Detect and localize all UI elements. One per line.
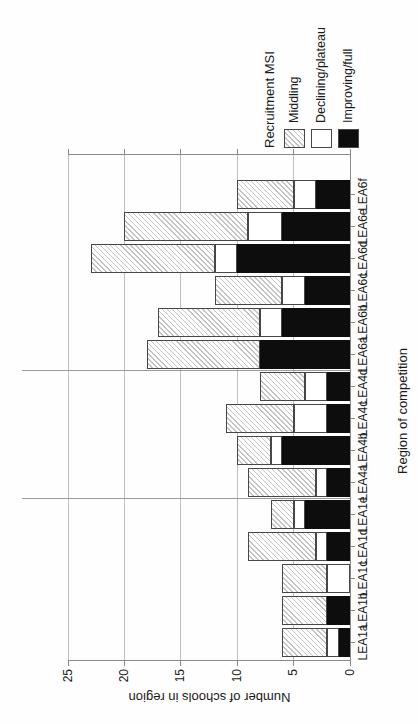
value-tick-label: 15 — [173, 669, 188, 709]
bar-segment-middling — [91, 244, 215, 273]
rotated-bar-chart: Number of schools in region Region of co… — [0, 0, 418, 724]
value-tick-label: 5 — [286, 669, 301, 709]
bar-segment-middling — [124, 212, 248, 241]
y-axis-line — [68, 660, 350, 661]
bar-segment-middling — [248, 468, 316, 497]
bar-segment-improving — [327, 468, 350, 497]
bar-segment-middling — [237, 180, 293, 209]
x-axis-title: Region of competition — [394, 261, 411, 561]
white-swatch-icon — [311, 129, 332, 148]
legend-label: Improving/full — [338, 49, 359, 123]
black-swatch-icon — [338, 129, 359, 148]
bar-segment-declining — [248, 212, 282, 241]
bar-segment-declining — [215, 244, 238, 273]
legend-label: Declining/plateau — [311, 27, 332, 123]
legend-entry-declining: Declining/plateau — [311, 0, 332, 148]
bar-segment-improving — [282, 308, 350, 337]
bar-segment-declining — [294, 500, 305, 529]
y-axis-title: Number of schools in region — [60, 689, 360, 706]
bar-segment-declining — [282, 276, 305, 305]
group-separator — [22, 370, 350, 371]
bar-segment-improving — [327, 596, 350, 625]
bar-segment-improving — [327, 372, 350, 401]
bar-segment-declining — [271, 436, 282, 465]
bar-segment-middling — [147, 340, 260, 369]
bar-segment-improving — [327, 404, 350, 433]
bar-segment-middling — [271, 500, 294, 529]
bar-segment-middling — [226, 404, 294, 433]
bar-segment-improving — [305, 276, 350, 305]
gridline — [68, 155, 69, 660]
bar-segment-middling — [282, 596, 327, 625]
value-tick-label: 25 — [61, 669, 76, 709]
bar-segment-declining — [294, 180, 317, 209]
bar-segment-declining — [327, 564, 350, 593]
bar-segment-middling — [237, 436, 271, 465]
legend-entry-improving: Improving/full — [338, 0, 359, 148]
bar-segment-improving — [237, 244, 350, 273]
bar-segment-declining — [327, 628, 338, 657]
bar-segment-middling — [260, 372, 305, 401]
value-tick-label: 20 — [117, 669, 132, 709]
bar-segment-improving — [260, 340, 350, 369]
bar-segment-improving — [339, 628, 350, 657]
value-tick-label: 0 — [343, 669, 358, 709]
figure-page: Number of schools in region Region of co… — [0, 0, 418, 724]
bar-segment-middling — [158, 308, 260, 337]
bar-segment-middling — [282, 564, 327, 593]
bar-segment-declining — [305, 372, 328, 401]
bar-segment-improving — [282, 212, 350, 241]
bar-segment-declining — [316, 532, 327, 561]
value-tick-label: 10 — [230, 669, 245, 709]
group-separator — [22, 498, 350, 499]
bar-segment-declining — [294, 404, 328, 433]
bar-segment-improving — [282, 436, 350, 465]
bar-segment-middling — [282, 628, 327, 657]
bar-segment-declining — [260, 308, 283, 337]
bar-segment-improving — [316, 180, 350, 209]
legend-entry-middling: Middling — [284, 0, 305, 148]
plot-right-frame-line — [68, 154, 350, 155]
bar-segment-middling — [248, 532, 316, 561]
bar-segment-improving — [327, 532, 350, 561]
bar-segment-middling — [215, 276, 283, 305]
legend-title: Recruitment MSI — [262, 0, 277, 148]
hatched-swatch-icon — [284, 129, 305, 148]
legend: Recruitment MSI Middling Declining/plate… — [262, 0, 365, 148]
legend-label: Middling — [284, 76, 305, 123]
x-axis-line — [350, 154, 351, 661]
bar-segment-improving — [305, 500, 350, 529]
bar-segment-declining — [316, 468, 327, 497]
category-label: LEA6f — [356, 169, 370, 221]
